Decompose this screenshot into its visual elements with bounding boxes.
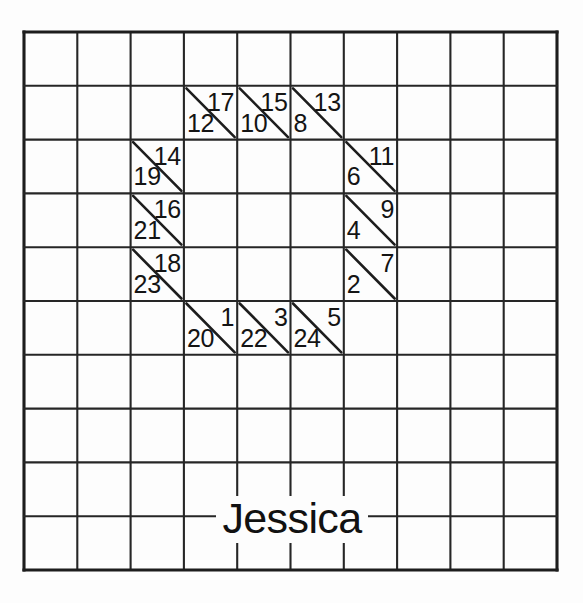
cell-number-lower-cell-r2-c2: 19 (134, 164, 164, 189)
puzzle-stage: 171215101381419116162194182372120322524 … (0, 0, 583, 603)
cell-number-lower-cell-r3-c6: 4 (347, 218, 377, 243)
cell-number-lower-cell-r1-c3: 12 (187, 111, 217, 136)
cell-number-lower-cell-r4-c6: 2 (347, 272, 377, 297)
cell-number-lower-cell-r2-c6: 6 (347, 164, 377, 189)
grid-lines (24, 32, 557, 570)
cell-number-lower-cell-r5-c3: 20 (187, 326, 217, 351)
cell-number-lower-cell-r5-c4: 22 (240, 326, 270, 351)
cell-number-lower-cell-r1-c5: 8 (294, 111, 324, 136)
cell-number-lower-cell-r3-c2: 21 (134, 218, 164, 243)
cell-number-lower-cell-r4-c2: 23 (134, 272, 164, 297)
cell-number-lower-cell-r1-c4: 10 (240, 111, 270, 136)
name-label: Jessica (216, 496, 367, 543)
cell-number-lower-cell-r5-c5: 24 (294, 326, 324, 351)
